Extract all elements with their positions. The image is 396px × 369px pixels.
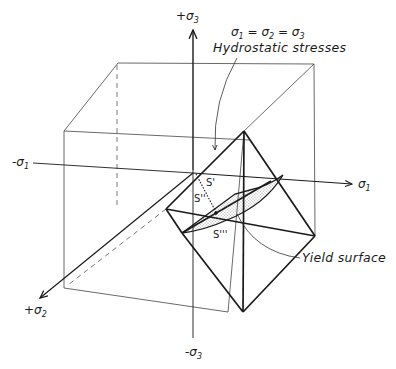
yield-leader (237, 214, 300, 258)
s-triple-prime-label: S''' (213, 230, 228, 240)
s-double-prime-label: S'' (194, 194, 206, 204)
subscript: 3 (194, 16, 199, 25)
symbol: σ (186, 9, 194, 23)
hydrostatic-stresses-label: Hydrostatic stresses (213, 42, 346, 55)
yield-surface-label: Yield surface (302, 252, 386, 265)
sigma1-axis-negative (33, 163, 193, 173)
yield-octahedron (166, 131, 315, 312)
symbol: σ (34, 303, 42, 317)
sign: + (24, 303, 34, 317)
symbol: σ (358, 177, 366, 191)
pos-sigma1-label: σ1 (358, 178, 371, 193)
sigma2-axis (40, 173, 193, 298)
symbol: σ (189, 345, 197, 359)
symbol: σ (16, 155, 24, 169)
leader-lines (215, 58, 300, 258)
subscript: 3 (197, 352, 202, 361)
subscript: 2 (42, 310, 47, 319)
sigma2-symbol: σ (261, 25, 269, 39)
equals-sign: = (274, 25, 292, 39)
hidden-cube-edges (68, 65, 166, 285)
shaded-yield-region (182, 175, 283, 233)
neg-sigma3-label: -σ3 (185, 346, 202, 361)
hydrostatic-equation: σ1 = σ2 = σ3 (231, 26, 304, 41)
axes (33, 30, 352, 338)
s-prime-label: S' (206, 178, 215, 188)
sigma1-symbol: σ (231, 25, 239, 39)
hydrostatic-leader (215, 58, 237, 150)
neg-sigma1-label: -σ1 (12, 156, 29, 171)
equals-sign: = (244, 25, 262, 39)
subscript: 1 (366, 184, 371, 193)
yield-surface-diagram: +σ3 -σ3 σ1 -σ1 +σ2 σ1 = σ2 = σ3 Hydrosta… (0, 0, 396, 369)
pos-sigma2-label: +σ2 (24, 304, 47, 319)
pos-sigma3-label: +σ3 (176, 10, 199, 25)
subscript: 1 (24, 162, 29, 171)
diagram-graphics (0, 0, 396, 369)
sign: + (176, 9, 186, 23)
